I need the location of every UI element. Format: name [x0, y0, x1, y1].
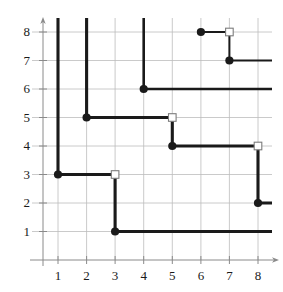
closed-dot-2-5 — [83, 113, 91, 121]
y-tick-label-5: 5 — [14, 111, 30, 124]
closed-dot-1-3 — [54, 170, 62, 178]
y-tick-label-7: 7 — [14, 54, 30, 67]
curve-1-path — [58, 18, 272, 232]
y-tick-label-2: 2 — [14, 196, 30, 209]
step-curve-4 — [201, 32, 272, 61]
curve-4-path — [201, 32, 272, 61]
open-square-7-8 — [226, 28, 234, 36]
step-function-chart: 8 7 6 5 4 3 2 1 1 2 3 4 5 6 7 8 — [0, 0, 283, 292]
x-tick-label-8: 8 — [250, 269, 266, 282]
step-curve-3 — [144, 18, 272, 89]
closed-dot-8-2 — [254, 199, 262, 207]
closed-dot-5-4 — [168, 142, 176, 150]
open-square-markers — [111, 28, 261, 178]
x-tick-label-7: 7 — [221, 269, 237, 282]
y-tick-label-4: 4 — [14, 139, 30, 152]
closed-dot-6-8 — [197, 28, 205, 36]
curve-3-path — [144, 18, 272, 89]
x-tick-label-3: 3 — [107, 269, 123, 282]
x-tick-label-6: 6 — [193, 269, 209, 282]
x-tick-label-2: 2 — [79, 269, 95, 282]
x-tick-label-1: 1 — [50, 269, 66, 282]
y-tick-label-8: 8 — [14, 25, 30, 38]
open-square-3-3 — [111, 171, 119, 179]
plot-area — [0, 0, 283, 292]
open-square-8-4 — [254, 142, 262, 150]
x-tick-label-4: 4 — [136, 269, 152, 282]
closed-dot-4-6 — [140, 85, 148, 93]
open-square-5-5 — [169, 114, 177, 122]
axes — [30, 20, 276, 266]
y-tick-label-3: 3 — [14, 168, 30, 181]
x-tick-label-5: 5 — [164, 269, 180, 282]
step-curve-1 — [58, 18, 272, 232]
y-tick-label-6: 6 — [14, 82, 30, 95]
grid-horizontal — [32, 32, 272, 232]
y-tick-label-1: 1 — [14, 225, 30, 238]
closed-dot-7-7 — [225, 56, 233, 64]
closed-dot-3-1 — [111, 227, 119, 235]
